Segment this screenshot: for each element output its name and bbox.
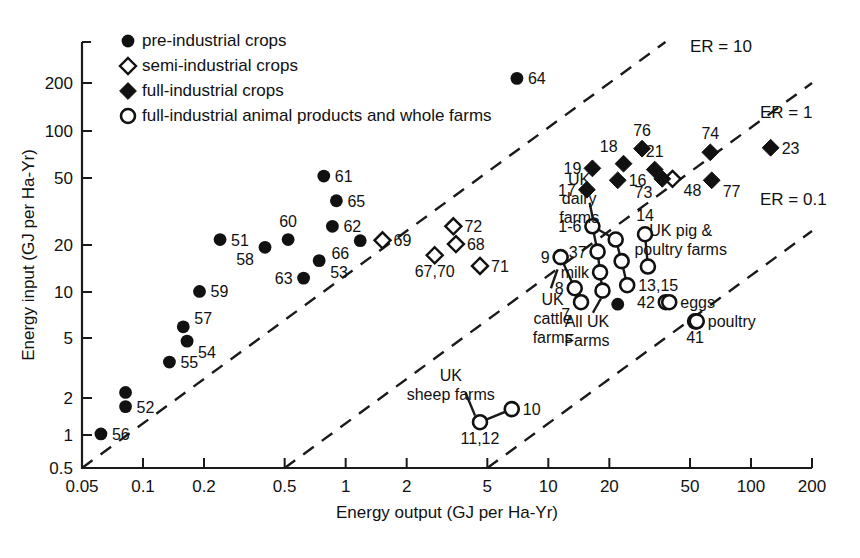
point-label-76: 76 xyxy=(633,122,651,139)
reference-line-label: ER = 0.1 xyxy=(760,190,827,209)
data-point-13,15 xyxy=(620,278,634,292)
point-label-42: 42 xyxy=(637,294,655,311)
data-point-poultry xyxy=(690,314,704,328)
data-point-18 xyxy=(615,155,632,172)
y-tick-label: 1 xyxy=(64,426,73,445)
point-label-65: 65 xyxy=(347,193,365,210)
point-label-milk: milk xyxy=(561,264,590,281)
point-label-72: 72 xyxy=(464,218,482,235)
point-label-37: 37 xyxy=(569,244,587,261)
point-label-13,15: 13,15 xyxy=(638,277,678,294)
point-label-18: 18 xyxy=(600,138,618,155)
legend-group: pre-industrial cropssemi-industrial crop… xyxy=(120,31,492,125)
y-tick-label: 10 xyxy=(54,283,73,302)
annotation-uk-dairy-farms: dairy xyxy=(562,190,597,207)
data-point-14b xyxy=(641,260,655,274)
data-point-52a xyxy=(119,386,132,399)
data-point-16 xyxy=(609,172,626,189)
data-point-77 xyxy=(703,172,720,189)
data-point-10 xyxy=(505,402,519,416)
data-point-64 xyxy=(511,72,524,85)
data-point-54 xyxy=(181,335,194,348)
y-axis-title: Energy input (GJ per Ha-Yr) xyxy=(19,149,38,361)
x-tick-label: 0.1 xyxy=(131,477,155,496)
annotation-all-uk-farms: Farms xyxy=(564,332,609,349)
point-label-66: 66 xyxy=(331,245,349,262)
point-label-57: 57 xyxy=(194,310,212,327)
point-label-11,12: 11,12 xyxy=(461,430,500,447)
annotation-all-uk-farms: All UK xyxy=(565,313,610,330)
point-label-62: 62 xyxy=(343,218,361,235)
x-tick-label: 0.5 xyxy=(273,477,297,496)
data-point-23 xyxy=(762,139,779,156)
legend-marker-0 xyxy=(122,35,135,48)
annotation-uk-pig-poultry-farms: UK pig & xyxy=(649,222,712,239)
point-label-68: 68 xyxy=(467,236,485,253)
point-label-59: 59 xyxy=(211,283,229,300)
annotation-uk-pig-poultry-farms: poultry farms xyxy=(634,241,726,258)
point-label-63: 63 xyxy=(275,270,293,287)
data-point-62 xyxy=(326,220,339,233)
legend-label-1: semi-industrial crops xyxy=(142,56,298,75)
point-label-48: 48 xyxy=(684,182,702,199)
data-point-53 xyxy=(313,254,326,267)
data-point-b1 xyxy=(609,233,623,247)
point-label-52b: 52 xyxy=(137,399,155,416)
point-label-41: 41 xyxy=(686,329,704,346)
data-point-74 xyxy=(702,144,719,161)
data-point-56 xyxy=(95,428,108,441)
data-point-57 xyxy=(177,320,190,333)
point-label-61: 61 xyxy=(335,168,353,185)
x-tick-label: 0.05 xyxy=(65,477,98,496)
x-tick-label: 5 xyxy=(483,477,492,496)
y-tick-label: 200 xyxy=(45,74,73,93)
x-tick-label: 0.2 xyxy=(192,477,216,496)
data-point-9 xyxy=(554,250,568,264)
y-tick-label: 5 xyxy=(64,329,73,348)
point-label-60: 60 xyxy=(279,213,297,230)
point-label-51: 51 xyxy=(231,232,249,249)
point-label-9: 9 xyxy=(541,249,550,266)
point-label-23: 23 xyxy=(782,140,800,157)
point-label-21: 21 xyxy=(646,143,664,160)
annotation-uk-dairy-farms: UK xyxy=(568,171,591,188)
data-point-allukfarms xyxy=(595,284,609,298)
x-axis-title: Energy output (GJ per Ha-Yr) xyxy=(336,503,558,522)
data-point-59 xyxy=(193,285,206,298)
point-label-69: 69 xyxy=(394,232,412,249)
point-label-55: 55 xyxy=(180,354,198,371)
point-label-64: 64 xyxy=(528,70,546,87)
reference-line-label: ER = 10 xyxy=(690,37,752,56)
data-point-66 xyxy=(354,234,367,247)
data-point-11,12 xyxy=(473,415,487,429)
point-label-74: 74 xyxy=(701,125,719,142)
x-tick-label: 20 xyxy=(600,477,619,496)
legend-marker-1 xyxy=(120,58,136,74)
annotation-leader xyxy=(593,298,601,312)
annotations-group: UKdairyfarmsUK pig &poultry farmsUKcattl… xyxy=(407,171,727,416)
point-label-67,70: 67,70 xyxy=(415,263,455,280)
x-tick-label: 50 xyxy=(681,477,700,496)
y-tick-label: 50 xyxy=(54,169,73,188)
data-point-63 xyxy=(297,272,310,285)
x-tick-label: 10 xyxy=(539,477,558,496)
data-point-61 xyxy=(317,170,330,183)
data-point-67,70 xyxy=(427,247,443,263)
data-point-58 xyxy=(259,241,272,254)
data-point-55 xyxy=(163,356,176,369)
data-point-72 xyxy=(445,218,461,234)
legend-label-3: full-industrial animal products and whol… xyxy=(142,106,492,125)
legend-marker-2 xyxy=(120,83,137,100)
x-tick-label: 200 xyxy=(798,477,826,496)
legend-label-0: pre-industrial crops xyxy=(142,31,287,50)
data-point-b2 xyxy=(615,254,629,268)
data-point-71 xyxy=(472,258,488,274)
x-tick-label: 1 xyxy=(341,477,350,496)
y-tick-label: 2 xyxy=(64,389,73,408)
point-label-71: 71 xyxy=(491,258,509,275)
x-tick-label: 2 xyxy=(402,477,411,496)
point-label-53: 53 xyxy=(330,264,348,281)
point-label-58: 58 xyxy=(236,251,254,268)
chart-figure: 0.51251020501002000.050.10.20.5125102050… xyxy=(0,0,860,558)
point-label-73: 73 xyxy=(634,184,652,201)
